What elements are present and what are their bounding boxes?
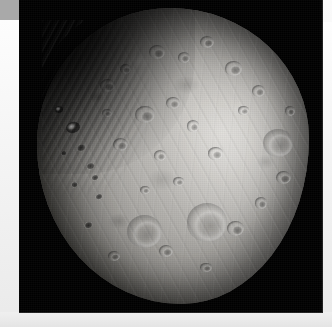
page-root [0, 0, 332, 327]
crater-ne-3 [238, 106, 248, 115]
crater-c-6 [208, 147, 222, 159]
crater-c-3 [187, 120, 200, 131]
page-bottom-margin [0, 312, 332, 327]
crater-s-2 [159, 245, 173, 257]
crater-s-4 [200, 263, 211, 272]
crater-e-3 [285, 106, 296, 116]
page-left-margin [0, 20, 19, 327]
crater-s-1 [127, 215, 162, 248]
crater-e-1 [263, 129, 293, 157]
crater-se-3 [255, 197, 268, 208]
page-topbar-sliver [0, 0, 19, 20]
phobos-body [37, 8, 309, 304]
page-right-margin [323, 22, 332, 327]
crater-s-3 [108, 251, 120, 261]
crater-c-7 [173, 177, 184, 186]
phobos-image[interactable] [19, 0, 323, 313]
crater-se-1 [187, 203, 228, 241]
photo-canvas [19, 0, 323, 313]
crater-n-3 [200, 36, 214, 48]
crater-se-2 [227, 221, 243, 236]
